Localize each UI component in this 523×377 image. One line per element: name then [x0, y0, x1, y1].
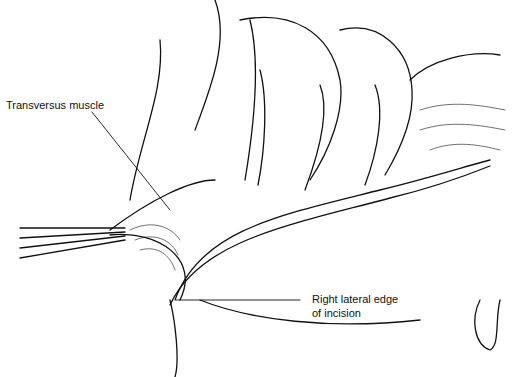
line-drawing: [0, 0, 523, 377]
label-right-lateral-edge: Right lateral edge: [312, 293, 398, 306]
surgical-illustration: Transversus muscle Right lateral edge of…: [0, 0, 523, 377]
label-transversus-muscle: Transversus muscle: [6, 99, 104, 112]
label-of-incision: of incision: [312, 307, 361, 320]
